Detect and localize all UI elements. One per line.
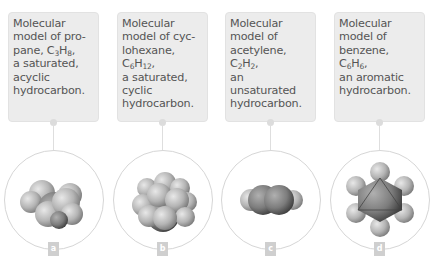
caption-line: an unsaturated <box>230 71 311 98</box>
acetylene-model-icon <box>221 150 321 250</box>
caption-line: model of <box>230 30 311 43</box>
caption-line: C2H2, <box>230 57 311 70</box>
caption-card: Molecular model of pro- pane, C3H8, a sa… <box>8 12 99 122</box>
panel-cyclohexane: Molecular model of cyc- lohexane, C6H12,… <box>109 0 219 267</box>
panel-propane: Molecular model of pro- pane, C3H8, a sa… <box>0 0 110 267</box>
caption-line: C6H12, <box>122 57 203 70</box>
caption-line: hydrocarbon. <box>122 97 203 110</box>
caption-line: cyclic <box>122 84 203 97</box>
caption-line: acetylene, <box>230 44 311 57</box>
caption-line: hydrocarbon. <box>230 97 311 110</box>
connector-line <box>379 124 380 152</box>
caption-line: an aromatic <box>339 71 420 84</box>
caption-line: acyclic <box>13 71 94 84</box>
benzene-model-icon <box>330 150 430 250</box>
caption-line: model of pro- <box>13 30 94 43</box>
caption-line: a saturated, <box>122 71 203 84</box>
caption-line: benzene, C6H6, <box>339 44 420 71</box>
caption-line: pane, C3H8, <box>13 44 94 57</box>
caption-line: a saturated, <box>13 57 94 70</box>
propane-model-icon <box>4 150 104 250</box>
caption-card: Molecular model of acetylene, C2H2, an u… <box>225 12 316 122</box>
caption-line: Molecular <box>13 17 94 30</box>
caption-line: Molecular <box>230 17 311 30</box>
caption-line: hydrocarbon. <box>13 84 94 97</box>
panel-label: b <box>157 242 168 256</box>
panel-label: c <box>265 242 276 256</box>
panel-label: d <box>374 242 385 256</box>
caption-line: lohexane, <box>122 44 203 57</box>
caption-line: Molecular <box>339 17 420 30</box>
caption-line: hydrocarbon. <box>339 84 420 97</box>
connector-line <box>53 124 54 152</box>
caption-card: Molecular model of benzene, C6H6, an aro… <box>334 12 425 122</box>
caption-line: model of cyc- <box>122 30 203 43</box>
panel-benzene: Molecular model of benzene, C6H6, an aro… <box>326 0 436 267</box>
cyclohexane-model-icon <box>113 150 213 250</box>
panel-label: a <box>48 242 59 256</box>
caption-line: model of <box>339 30 420 43</box>
connector-line <box>270 124 271 152</box>
caption-card: Molecular model of cyc- lohexane, C6H12,… <box>117 12 208 122</box>
panel-acetylene: Molecular model of acetylene, C2H2, an u… <box>217 0 327 267</box>
caption-line: Molecular <box>122 17 203 30</box>
connector-line <box>162 124 163 152</box>
